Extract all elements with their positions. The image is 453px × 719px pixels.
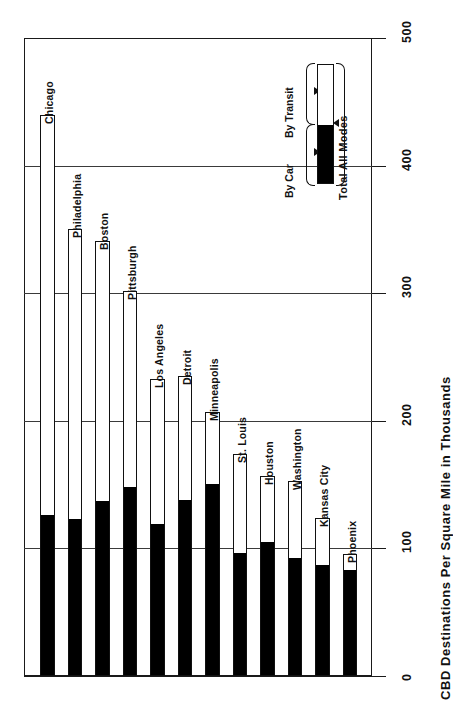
axis-tick-label-0: 0 (400, 674, 414, 681)
legend-sample-bar (317, 64, 334, 184)
gridline-0 (24, 676, 372, 677)
axis-tick-200 (372, 421, 386, 422)
axis-tick-label-500: 500 (400, 21, 414, 43)
axis-tick-label-100: 100 (400, 531, 414, 553)
bar-philadelphia (68, 229, 83, 676)
bar-minneapolis (205, 412, 220, 676)
bar-segment-car (206, 484, 219, 675)
bar-los-angeles (150, 379, 165, 676)
bar-label-philadelphia: Philadelphia (71, 174, 83, 238)
bar-washington (288, 481, 303, 676)
legend: By Transit By Car Total All Modes (282, 58, 374, 190)
axis-tick-label-200: 200 (400, 403, 414, 425)
bar-segment-car (124, 487, 137, 675)
bar-label-minneapolis: Minneapolis (208, 358, 220, 421)
bar-label-phoenix: Phoenix (346, 520, 358, 562)
axis-tick-label-300: 300 (400, 276, 414, 298)
bar-segment-car (234, 553, 247, 675)
bar-label-kansas-city: Kansas City (318, 464, 330, 526)
bar-kansas-city (315, 518, 330, 676)
bar-segment-car (289, 558, 302, 675)
bar-segment-car (69, 519, 82, 675)
axis-tick-0 (372, 676, 386, 677)
bar-label-washington: Washington (291, 428, 303, 490)
bar-label-detroit: Detroit (181, 350, 193, 385)
bar-label-st-louis: St. Louis (236, 417, 248, 463)
axis-title: CBD Destinations Per Square Mile in Thou… (438, 376, 453, 700)
gridline-500 (24, 38, 372, 39)
bar-label-los-angeles: Los Angeles (153, 323, 165, 387)
bar-st-louis (233, 454, 248, 676)
axis-tick-label-400: 400 (400, 148, 414, 170)
axis-tick-100 (372, 548, 386, 549)
legend-label-by-car: By Car (283, 164, 295, 198)
bar-segment-car (151, 524, 164, 675)
bar-label-houston: Houston (263, 441, 275, 485)
bar-pittsburgh (123, 291, 138, 676)
axis-tick-400 (372, 166, 386, 167)
bar-boston (95, 241, 110, 676)
bar-segment-car (41, 515, 54, 675)
legend-label-total-all-modes: Total All Modes (337, 115, 349, 200)
bar-chicago (40, 115, 55, 676)
bar-segment-car (316, 565, 329, 675)
legend-label-by-transit: By Transit (283, 87, 295, 138)
bar-detroit (178, 376, 193, 676)
bar-label-pittsburgh: Pittsburgh (126, 245, 138, 300)
bar-label-boston: Boston (98, 213, 110, 250)
bar-houston (260, 476, 275, 676)
bar-label-chicago: Chicago (43, 81, 55, 124)
bar-segment-car (344, 570, 357, 675)
axis-tick-500 (372, 38, 386, 39)
bar-segment-car (179, 500, 192, 675)
bar-phoenix (343, 554, 358, 676)
bar-segment-car (261, 542, 274, 675)
axis-tick-300 (372, 293, 386, 294)
bar-segment-car (96, 501, 109, 675)
legend-sample-car-segment (318, 125, 333, 183)
